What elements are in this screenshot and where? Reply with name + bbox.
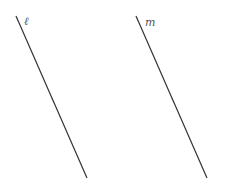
line-m-label: m: [145, 16, 155, 29]
line-m: [136, 16, 207, 178]
line-l-label: ℓ: [24, 15, 29, 28]
line-l: [16, 16, 87, 178]
diagram-svg: ℓ m: [0, 0, 246, 195]
diagram-canvas: ℓ m: [0, 0, 246, 195]
